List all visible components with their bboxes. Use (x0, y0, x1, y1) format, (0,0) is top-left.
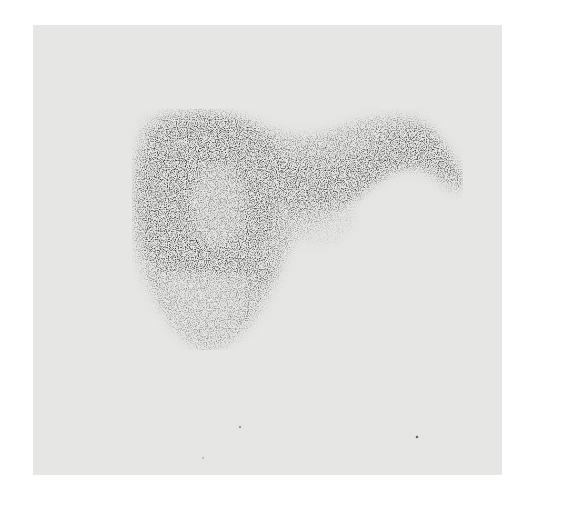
scan-panel: Grayscale nuclear scan image showing a l… (33, 25, 502, 475)
speck (239, 426, 241, 428)
speck (202, 457, 204, 459)
speck (416, 436, 419, 439)
liver-scan-image (33, 25, 502, 475)
